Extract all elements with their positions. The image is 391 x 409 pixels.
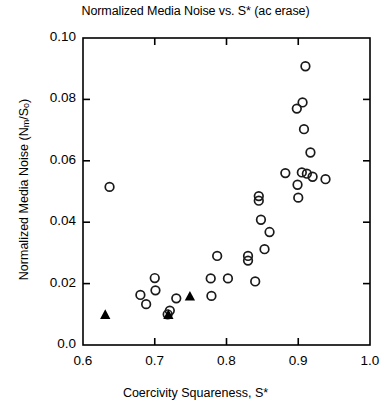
data-point-open-circle: [300, 125, 309, 134]
y-tick-label: 0.04: [11, 213, 76, 228]
figure-container: Normalized Media Noise vs. S* (ac erase)…: [0, 0, 391, 409]
data-point-open-circle: [172, 294, 181, 303]
data-point-open-circle: [306, 148, 315, 157]
y-tick-label: 0.08: [11, 90, 76, 105]
data-point-open-circle: [213, 252, 222, 261]
data-point-open-circle: [298, 98, 307, 107]
data-point-open-circle: [294, 193, 303, 202]
y-tick-label: 0.06: [11, 152, 76, 167]
data-point-open-circle: [321, 175, 330, 184]
data-point-open-circle: [207, 292, 216, 301]
data-point-open-circle: [206, 274, 215, 283]
data-point-open-circle: [105, 183, 114, 192]
data-point-open-circle: [293, 180, 302, 189]
data-point-open-circle: [260, 245, 269, 254]
x-tick-label: 0.9: [268, 353, 328, 368]
x-tick-label: 1.0: [340, 353, 391, 368]
data-point-open-circle: [265, 228, 274, 237]
data-point-open-circle: [150, 274, 159, 283]
axis-frame: [83, 38, 370, 345]
x-tick-label: 0.8: [197, 353, 257, 368]
y-tick-label: 0.0: [11, 336, 76, 351]
x-tick-label: 0.7: [125, 353, 185, 368]
data-point-filled-triangle: [185, 291, 195, 301]
data-point-group: [100, 62, 330, 319]
data-point-filled-triangle: [100, 309, 110, 319]
data-point-open-circle: [281, 169, 290, 178]
x-axis-ticks: [155, 38, 299, 345]
data-point-open-circle: [257, 215, 266, 224]
data-point-open-circle: [251, 277, 260, 286]
data-point-open-circle: [224, 274, 233, 283]
y-tick-label: 0.02: [11, 275, 76, 290]
data-point-open-circle: [151, 286, 160, 295]
y-tick-label: 0.10: [11, 29, 76, 44]
x-tick-label: 0.6: [53, 353, 113, 368]
y-axis-ticks: [83, 99, 370, 283]
data-point-open-circle: [301, 62, 310, 71]
data-point-open-circle: [136, 291, 145, 300]
data-point-open-circle: [142, 300, 151, 309]
